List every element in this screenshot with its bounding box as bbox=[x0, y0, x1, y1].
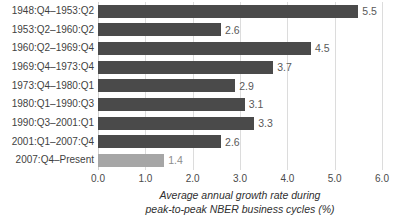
category-axis-labels: 1948:Q4–1953:Q21953:Q2–1960:Q21960:Q2–19… bbox=[0, 2, 94, 170]
category-label: 1980:Q1–1990:Q3 bbox=[12, 95, 94, 114]
x-axis-title-line-1: Average annual growth rate during bbox=[98, 188, 382, 202]
bar-row: 2.9 bbox=[98, 77, 382, 96]
bar-value-label: 4.5 bbox=[315, 40, 330, 56]
category-label: 1969:Q4–1973:Q4 bbox=[12, 58, 94, 77]
x-axis-tick-labels: 0.01.02.03.04.05.06.0 bbox=[98, 170, 382, 186]
bar-chart: 1948:Q4–1953:Q21953:Q2–1960:Q21960:Q2–19… bbox=[0, 0, 398, 223]
bar-value-label: 1.4 bbox=[168, 152, 183, 168]
bar-value-label: 3.3 bbox=[258, 115, 273, 131]
bar bbox=[98, 117, 254, 130]
bar-row: 2.6 bbox=[98, 133, 382, 152]
bar-row: 3.3 bbox=[98, 114, 382, 133]
bar-row: 3.7 bbox=[98, 58, 382, 77]
bar bbox=[98, 23, 221, 36]
plot-area: 5.52.64.53.72.93.13.32.61.4 bbox=[98, 2, 382, 170]
bar-row: 4.5 bbox=[98, 39, 382, 58]
bar bbox=[98, 61, 273, 74]
bar-value-label: 2.6 bbox=[225, 134, 240, 150]
x-axis-title: Average annual growth rate during peak-t… bbox=[98, 188, 382, 216]
x-tick-label: 0.0 bbox=[91, 172, 105, 186]
x-tick-label: 5.0 bbox=[328, 172, 342, 186]
x-tick-label: 2.0 bbox=[186, 172, 200, 186]
bar-value-label: 2.9 bbox=[239, 78, 254, 94]
bar bbox=[98, 79, 235, 92]
bar-row: 1.4 bbox=[98, 151, 382, 170]
bar-value-label: 3.1 bbox=[249, 96, 264, 112]
x-axis-title-line-2: peak-to-peak NBER business cycles (%) bbox=[98, 202, 382, 216]
x-tick-label: 6.0 bbox=[375, 172, 389, 186]
bar-row: 3.1 bbox=[98, 95, 382, 114]
category-label: 1960:Q2–1969:Q4 bbox=[12, 39, 94, 58]
category-label: 1953:Q2–1960:Q2 bbox=[12, 21, 94, 40]
x-tick-label: 4.0 bbox=[280, 172, 294, 186]
bar-series: 5.52.64.53.72.93.13.32.61.4 bbox=[98, 2, 382, 170]
bar-row: 5.5 bbox=[98, 2, 382, 21]
bar-value-label: 3.7 bbox=[277, 59, 292, 75]
bar bbox=[98, 98, 245, 111]
bar bbox=[98, 5, 358, 18]
bar bbox=[98, 135, 221, 148]
category-label: 2007:Q4–Present bbox=[16, 151, 94, 170]
category-label: 1990:Q3–2001:Q1 bbox=[12, 114, 94, 133]
category-label: 1948:Q4–1953:Q2 bbox=[12, 2, 94, 21]
bar bbox=[98, 42, 311, 55]
gridline-6.0 bbox=[382, 2, 383, 170]
bar-value-label: 2.6 bbox=[225, 22, 240, 38]
x-tick-label: 1.0 bbox=[138, 172, 152, 186]
bar bbox=[98, 154, 164, 167]
category-label: 1973:Q4–1980:Q1 bbox=[12, 77, 94, 96]
x-tick-label: 3.0 bbox=[233, 172, 247, 186]
bar-value-label: 5.5 bbox=[362, 3, 377, 19]
bar-row: 2.6 bbox=[98, 21, 382, 40]
category-label: 2001:Q1–2007:Q4 bbox=[12, 133, 94, 152]
